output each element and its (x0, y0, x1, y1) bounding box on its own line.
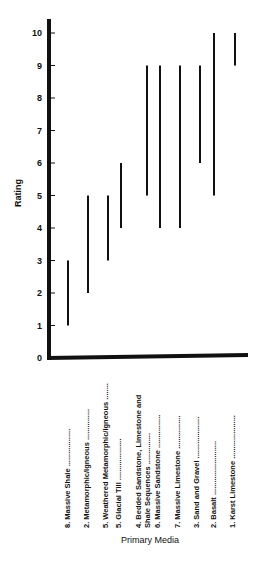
category-label: 5. Weathered Metamorphic/Igneous .......… (101, 383, 110, 528)
range-bars (68, 33, 235, 326)
y-tick-label: 2 (37, 288, 42, 298)
category-label: 5. Glacial Till .................... (114, 439, 123, 528)
y-tick-label: 7 (37, 126, 42, 136)
y-axis-title: Rating (13, 179, 23, 207)
category-label: 7. Massive Limestone ................ (173, 415, 182, 528)
category-label-line: 5. Weathered Metamorphic/Igneous .......… (101, 383, 110, 528)
category-labels: 8. Massive Shale ..................2. Me… (63, 383, 237, 528)
y-tick-label: 6 (37, 158, 42, 168)
range-chart: 012345678910 8. Massive Shale ..........… (0, 0, 259, 561)
category-label-line: 2. Basalt .......................... (209, 441, 218, 528)
y-tick-label: 3 (37, 256, 42, 266)
x-axis-title: Primary Media (121, 535, 179, 545)
y-axis: 012345678910 (32, 19, 55, 363)
y-tick-label: 5 (37, 191, 42, 201)
category-label: 2. Basalt .......................... (209, 441, 218, 528)
category-label-line: 4. Bedded Sandstone, Limestone and (134, 394, 143, 528)
y-tick-label: 1 (37, 321, 42, 331)
category-label: 8. Massive Shale .................. (63, 429, 72, 528)
y-tick-label: 8 (37, 93, 42, 103)
category-label: 1. Karst Limestone ..................... (228, 415, 237, 528)
category-label-line: 1. Karst Limestone ..................... (228, 415, 237, 528)
category-label: 6. Massive Sandstone ................ (153, 415, 162, 528)
category-label: 3. Sand and Gravel .................... (192, 417, 201, 528)
category-label-line: 6. Massive Sandstone ................ (153, 415, 162, 528)
y-tick-label: 9 (37, 61, 42, 71)
category-label-line: 8. Massive Shale .................. (63, 429, 72, 528)
category-label: 2. Metamorphic/Igneous ............... (82, 409, 91, 528)
x-axis-line (47, 355, 248, 358)
category-label-line: Shale Sequences ............... (143, 433, 152, 528)
y-tick-label: 10 (32, 28, 42, 38)
category-label-line: 2. Metamorphic/Igneous ............... (82, 409, 91, 528)
category-label-line: 3. Sand and Gravel .................... (192, 417, 201, 528)
category-label-line: 7. Massive Limestone ................ (173, 415, 182, 528)
category-label: 4. Bedded Sandstone, Limestone and Shale… (134, 394, 152, 528)
y-tick-label: 0 (37, 353, 42, 363)
category-label-line: 5. Glacial Till .................... (114, 439, 123, 528)
y-tick-label: 4 (37, 223, 42, 233)
x-axis (47, 355, 248, 358)
